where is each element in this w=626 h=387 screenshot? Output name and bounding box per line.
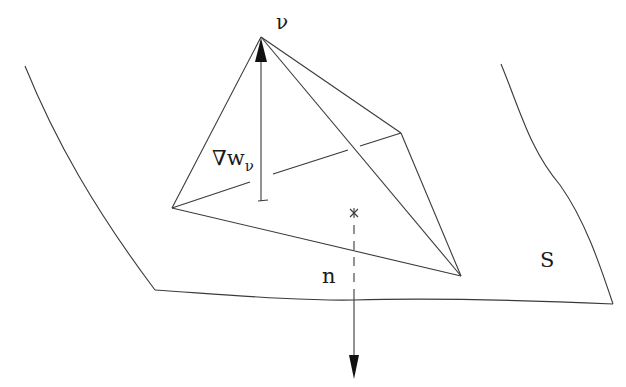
- surface-left-curve: [25, 66, 155, 290]
- normal-label: n: [322, 266, 336, 287]
- gradient-base-tick: [258, 200, 268, 201]
- edge-rightback-bottomright: [401, 133, 461, 276]
- edge-apex-rightback: [261, 37, 401, 133]
- surface-bottom-edge: [155, 290, 613, 304]
- diagram-canvas: [0, 0, 626, 387]
- gradient-label: ∇wν: [212, 148, 254, 174]
- gradient-symbol: ∇w: [212, 146, 245, 170]
- normal-arrowhead: [349, 355, 359, 379]
- gradient-subscript: ν: [245, 157, 254, 175]
- edge-left-rightback-seg3: [360, 133, 401, 146]
- edge-apex-bottomright: [261, 37, 461, 276]
- edge-left-bottomright: [172, 208, 461, 276]
- apex-label: ν: [276, 12, 288, 32]
- surface-right-curve: [501, 64, 613, 304]
- surface-label: S: [540, 250, 554, 271]
- centroid-cross-icon: [350, 208, 358, 218]
- edge-left-rightback-seg2: [273, 150, 348, 174]
